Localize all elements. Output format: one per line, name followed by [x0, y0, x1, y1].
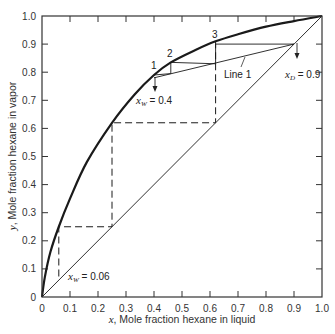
y-tick-label: 0.2: [22, 235, 36, 246]
xw-lower-annotation: xW = 0.06: [67, 270, 110, 284]
xd-arrowhead: [295, 53, 300, 59]
line-1-leader: [241, 57, 245, 67]
series-layer: [42, 16, 322, 297]
xw-upper-arrowhead: [153, 86, 158, 92]
y-tick-label: 0.3: [22, 207, 36, 218]
x-tick-label: 0.2: [91, 303, 105, 314]
x-axis-label: x, Mole fraction hexane in liquid: [108, 313, 256, 325]
y-tick-label: 0.5: [22, 151, 36, 162]
y-tick-label: 0.6: [22, 123, 36, 134]
series-dashed-stages: [59, 41, 216, 280]
x-tick-label: 0.1: [63, 303, 77, 314]
y-axis-label: y, Mole fraction hexane in vapor: [6, 81, 18, 231]
x-tick-label: 0.9: [287, 303, 301, 314]
xw-upper-annotation: xW = 0.4: [135, 94, 172, 108]
x-tick-label: 0: [39, 303, 45, 314]
xd-value: = 0.9: [295, 69, 321, 80]
xd-annotation: xD = 0.9: [284, 68, 321, 82]
x-tick-label: 1.0: [315, 303, 329, 314]
stage-3-label: 3: [212, 29, 218, 40]
y-tick-label: 0.7: [22, 95, 36, 106]
stage-1-label: 1: [151, 60, 157, 71]
y-tick-label: 1.0: [22, 11, 36, 22]
y-tick-label: 0: [30, 292, 36, 303]
y-axis-text: , Mole fraction hexane in vapor: [6, 81, 18, 225]
mccabe-thiele-chart: 00.10.20.30.40.50.60.70.80.91.000.10.20.…: [0, 0, 335, 334]
xw-upper-value: = 0.4: [147, 95, 173, 106]
stage-2-label: 2: [167, 48, 173, 59]
series-diagonal-y-x: [42, 16, 322, 297]
xw-lower-value: = 0.06: [79, 271, 110, 282]
y-tick-label: 0.1: [22, 263, 36, 274]
y-tick-label: 0.4: [22, 179, 36, 190]
y-tick-label: 0.9: [22, 39, 36, 50]
y-tick-label: 0.8: [22, 67, 36, 78]
x-tick-label: 0.8: [259, 303, 273, 314]
line-1-label: Line 1: [224, 69, 252, 80]
x-axis-text: , Mole fraction hexane in liquid: [114, 313, 256, 325]
